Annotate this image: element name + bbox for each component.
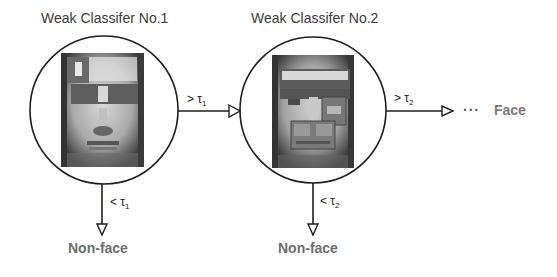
tau-index: 1 <box>202 99 206 108</box>
reject-arrow-1-head <box>97 224 107 235</box>
pass-arrow-2-head <box>442 106 453 116</box>
stage-2-pass-threshold: > τ2 <box>394 91 414 107</box>
pass-arrow-1-head <box>229 105 240 117</box>
stage-2-face-image <box>272 55 354 168</box>
stage-1-reject-threshold: < τ1 <box>110 195 130 211</box>
stage-2-title: Weak Classifer No.2 <box>251 10 378 26</box>
face-output-label: Face <box>494 102 526 118</box>
pass-operator: > <box>187 92 194 106</box>
reject-operator: < <box>110 195 117 209</box>
tau-index: 2 <box>409 98 413 107</box>
continuation-ellipsis: ··· <box>463 102 480 118</box>
stage-1-title: Weak Classifer No.1 <box>41 10 168 26</box>
tau-index: 2 <box>335 201 339 210</box>
tau-index: 1 <box>125 202 129 211</box>
cascade-classifier-diagram: Weak Classifer No.1 <box>0 0 557 277</box>
stage-1-face-image <box>61 53 144 167</box>
stage-2-non-face-label: Non-face <box>278 240 338 256</box>
reject-operator: < <box>320 194 327 208</box>
stage-1-pass-threshold: > τ1 <box>187 92 207 108</box>
stage-1-non-face-label: Non-face <box>68 240 128 256</box>
stage-2-reject-threshold: < τ2 <box>320 194 340 210</box>
reject-arrow-2-head <box>308 224 318 235</box>
pass-operator: > <box>394 91 401 105</box>
